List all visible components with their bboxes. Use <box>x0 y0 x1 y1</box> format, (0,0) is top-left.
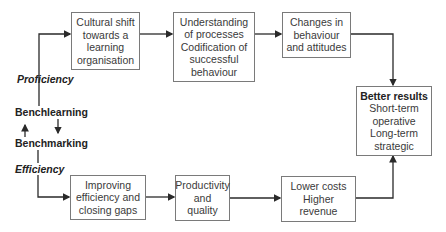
box-line: operative <box>372 115 415 128</box>
box-line: and <box>194 192 212 205</box>
better-results-box: Better results Short-term operative Long… <box>356 86 432 156</box>
box-line: behaviour <box>191 66 237 79</box>
efficiency-label: Efficiency <box>15 163 64 175</box>
box-line: Understanding <box>180 16 248 29</box>
box-line: Long-term <box>370 127 418 140</box>
box-line: learning <box>87 41 124 54</box>
box-line: of processes <box>184 28 244 41</box>
box-line: behaviour <box>293 29 339 42</box>
box-line: closing gaps <box>79 204 137 217</box>
productivity-quality-box: Productivity and quality <box>175 175 230 221</box>
box-line: quality <box>187 204 217 217</box>
box-line: strategic <box>374 140 414 153</box>
box-line: revenue <box>300 205 338 218</box>
box-line: successful <box>189 53 238 66</box>
lower-costs-box: Lower costs Higher revenue <box>281 176 356 222</box>
box-line: efficiency and <box>76 191 140 204</box>
box-line: and attitudes <box>286 41 346 54</box>
changes-behaviour-box: Changes in behaviour and attitudes <box>282 12 351 58</box>
benchmarking-label: Benchmarking <box>15 137 88 149</box>
box-line: Cultural shift <box>76 16 134 29</box>
box-line: Productivity <box>175 179 229 192</box>
box-line: Lower costs <box>290 180 346 193</box>
box-line: Changes in <box>290 16 343 29</box>
benchlearning-label: Benchlearning <box>15 106 88 118</box>
result-title: Better results <box>360 90 428 103</box>
box-line: organisation <box>77 54 134 67</box>
box-line: towards a <box>83 29 129 42</box>
box-line: Codification of <box>181 41 248 54</box>
box-line: Improving <box>85 179 131 192</box>
box-line: Higher <box>303 193 334 206</box>
understanding-processes-box: Understanding of processes Codification … <box>173 12 255 82</box>
improving-efficiency-box: Improving efficiency and closing gaps <box>70 175 146 220</box>
proficiency-label: Proficiency <box>17 73 74 85</box>
cultural-shift-box: Cultural shift towards a learning organi… <box>71 12 140 70</box>
box-line: Short-term <box>369 102 419 115</box>
